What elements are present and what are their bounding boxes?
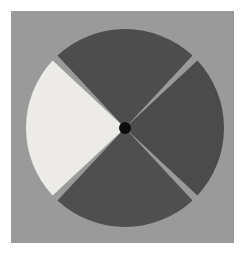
- figure-root: [0, 0, 245, 254]
- center-hub-icon: [119, 122, 131, 134]
- disc-figure-svg: [0, 0, 245, 254]
